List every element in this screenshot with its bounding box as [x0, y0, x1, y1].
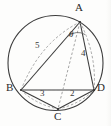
vertex-dot-D	[93, 89, 95, 91]
vertex-label-A: A	[75, 2, 83, 13]
vertex-label-D: D	[97, 82, 105, 93]
angle-label-theta: θ	[69, 30, 73, 39]
side-length-label-AD: 4	[81, 49, 86, 58]
vertex-dot-A	[79, 21, 81, 23]
side-length-label-CD: 2	[70, 89, 75, 98]
vertex-label-C: C	[54, 111, 61, 122]
geometry-figure: A B C D 5 4 3 2 θ	[0, 0, 111, 126]
vertex-dot-B	[20, 89, 22, 91]
vertex-label-B: B	[6, 82, 13, 93]
side-length-label-AB: 5	[35, 41, 40, 50]
side-length-label-BC: 3	[40, 89, 45, 98]
geometry-canvas	[0, 0, 111, 126]
